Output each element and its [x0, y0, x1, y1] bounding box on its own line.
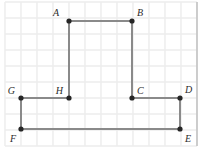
figure-canvas: ABCDEFGH: [0, 0, 199, 148]
vertex-point-g: [18, 95, 23, 100]
figure-background: [0, 0, 199, 148]
vertex-label-d: D: [184, 84, 193, 95]
vertex-label-b: B: [137, 7, 143, 18]
vertex-point-f: [18, 126, 23, 131]
vertex-label-f: F: [9, 133, 17, 144]
vertex-label-a: A: [52, 7, 60, 18]
grid-polygon-figure: ABCDEFGH: [0, 0, 199, 148]
vertex-point-c: [129, 95, 134, 100]
vertex-point-a: [66, 18, 71, 23]
vertex-point-b: [129, 18, 134, 23]
vertex-label-g: G: [8, 85, 15, 96]
vertex-point-d: [177, 95, 182, 100]
vertex-label-c: C: [137, 85, 144, 96]
vertex-point-h: [66, 95, 71, 100]
vertex-label-h: H: [55, 85, 64, 96]
vertex-point-e: [177, 126, 182, 131]
vertex-label-e: E: [184, 133, 191, 144]
